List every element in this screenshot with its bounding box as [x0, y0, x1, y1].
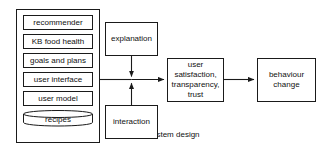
component-kb-food-health[interactable]: KB food health	[23, 34, 93, 49]
node-user-satisfaction[interactable]: user satisfaction, transparency, trust	[167, 58, 224, 102]
node-explanation[interactable]: explanation	[105, 22, 158, 56]
node-behaviour-change[interactable]: behaviour change	[257, 58, 316, 102]
component-recipes-label: recipes	[23, 115, 93, 124]
component-recommender[interactable]: recommender	[23, 15, 93, 30]
component-recipes-datastore[interactable]: recipes	[23, 110, 93, 127]
system-design-label: system design	[0, 130, 332, 139]
diagram-canvas: recommender KB food health goals and pla…	[0, 0, 332, 159]
component-goals-and-plans[interactable]: goals and plans	[23, 53, 93, 68]
node-interaction[interactable]: interaction	[105, 105, 158, 139]
component-user-model[interactable]: user model	[23, 91, 93, 106]
component-user-interface[interactable]: user interface	[23, 72, 93, 87]
